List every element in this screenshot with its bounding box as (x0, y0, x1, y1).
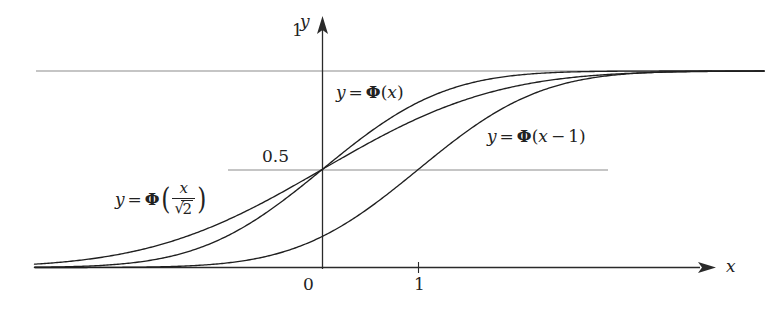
phi-scaled-fraction: x √2 (172, 181, 195, 217)
phi-x-equals: = (346, 82, 366, 102)
annotation-phi-x-over-sqrt2: y=Φ( x √2 ) (115, 182, 208, 218)
phi-scaled-denominator-group: √2 (172, 200, 195, 218)
phi-x-lhs: y (336, 82, 346, 102)
y-tick-label-0-5: 0.5 (262, 148, 289, 165)
phi-shift-minus: − (548, 126, 568, 146)
annotation-phi-x: y=Φ(x) (336, 84, 404, 101)
annotation-phi-x-minus-1: y=Φ(x−1) (487, 128, 586, 145)
phi-x-argument: x (387, 82, 397, 102)
phi-shift-argument-number: 1 (568, 126, 579, 146)
sqrt-radical-symbol: √ (174, 201, 184, 216)
phi-shift-equals: = (497, 126, 517, 146)
phi-scaled-lhs: y (115, 189, 125, 209)
sqrt-icon: √2 (174, 200, 193, 218)
phi-shift-argument-var: x (538, 126, 548, 146)
x-axis-arrowhead (698, 262, 716, 273)
phi-scaled-numerator: x (172, 181, 195, 197)
phi-scaled-equals: = (125, 189, 145, 209)
y-tick-label-1: 1 (292, 22, 303, 39)
phi-shift-symbol: Φ (517, 126, 532, 146)
phi-scaled-paren-open: ( (161, 188, 170, 210)
normal-cdf-figure: y x 1 0.5 0 1 y=Φ(x) y=Φ(x−1) y=Φ( x √2 … (0, 0, 765, 312)
phi-scaled-paren-close: ) (197, 188, 206, 210)
phi-x-symbol: Φ (366, 82, 381, 102)
x-axis-label: x (726, 258, 736, 275)
x-tick-label-1: 1 (414, 276, 425, 293)
x-tick-label-0: 0 (303, 276, 314, 293)
phi-x-paren-close: ) (397, 82, 404, 102)
phi-shift-paren-close: ) (579, 126, 586, 146)
phi-scaled-symbol: Φ (145, 189, 160, 209)
plot-canvas (0, 0, 765, 312)
phi-shift-lhs: y (487, 126, 497, 146)
